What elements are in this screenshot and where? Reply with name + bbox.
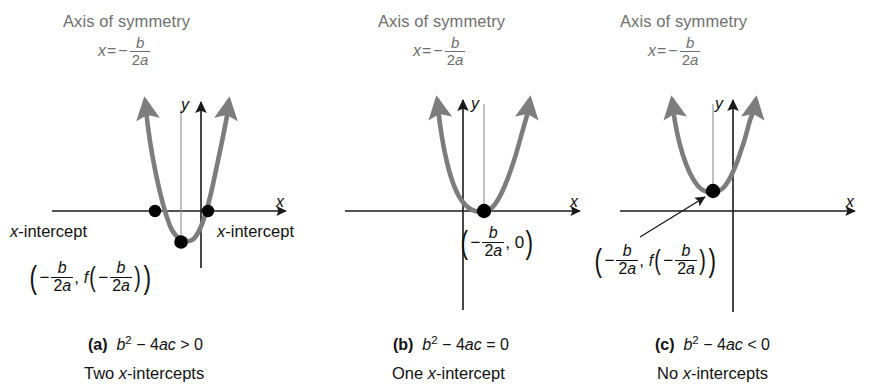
panel-c-parabola-arrow-right <box>754 99 756 111</box>
panel-c-vertex-point <box>706 184 720 198</box>
vertex-b-comma: , <box>505 233 510 252</box>
panel-c-caption-expression: (c) b2 − 4ac < 0 <box>655 334 770 354</box>
panel-b-caption-tag: (b) <box>393 336 413 353</box>
panel-a-right-intercept-x: x <box>217 222 225 240</box>
aos-eq-denominator-b: 2a <box>445 51 466 68</box>
aos-eq-minus-a: − <box>117 42 128 59</box>
panel-a-parabola-arrow-left <box>145 100 147 113</box>
panel-b-vertex-label: (−b2a, 0) <box>459 226 535 260</box>
vertex-a-frac1: b2a <box>51 260 73 294</box>
panel-c-axis-of-symmetry-title: Axis of symmetry <box>620 12 747 31</box>
panel-a-right-x-intercept-point <box>202 205 214 217</box>
panel-a-left-x-intercept-point <box>149 205 161 217</box>
panel-b-expr-minus: − <box>442 336 451 353</box>
aos-eq-x-c: x <box>648 42 656 59</box>
panel-c-expr-zero: 0 <box>761 336 770 353</box>
panel-b-y-axis-label: y <box>471 95 479 113</box>
panel-b-expr-zero: 0 <box>500 336 509 353</box>
vertex-c-comma: , <box>639 251 644 270</box>
panel-b-caption-text: One x-intercept <box>392 364 505 383</box>
panel-c-y-axis-label: y <box>715 95 723 113</box>
aos-eq-x-b: x <box>413 42 421 59</box>
panel-b-vertex-point <box>477 204 491 218</box>
vertex-c-open-paren: ( <box>594 247 602 274</box>
vertex-b-zero: 0 <box>515 233 524 252</box>
panel-a-y-axis-label: y <box>181 96 189 114</box>
panel-b-parabola-arrow-right <box>528 99 530 111</box>
panel-b-parabola-arrow-left <box>437 99 439 111</box>
panel-c-expr-relation: < <box>747 336 756 353</box>
panel-b-caption-post: -intercept <box>436 364 505 382</box>
aos-eq-fraction-b: b2a <box>445 35 466 67</box>
panel-a-right-x-intercept-label: x-intercept <box>217 222 294 241</box>
vertex-a-close-paren: ) <box>143 264 151 291</box>
panel-c-caption-post: -intercepts <box>691 364 768 382</box>
panel-c-caption-text: No x-intercepts <box>657 364 768 383</box>
panel-a-caption-expression: (a) b2 − 4ac > 0 <box>88 334 203 354</box>
vertex-c-inner-close-paren: ) <box>699 248 706 271</box>
aos-eq-numerator-c: b <box>684 35 696 51</box>
panel-a-left-x-intercept-label: x-intercept <box>10 222 87 241</box>
aos-eq-denominator-a: 2a <box>130 51 151 68</box>
aos-eq-numerator-a: b <box>134 35 146 51</box>
vertex-c-f: f <box>649 251 654 269</box>
vertex-c-minus2: − <box>662 251 674 270</box>
panel-a-caption-post: -intercepts <box>127 364 204 382</box>
panel-c-expr-4ac: 4ac <box>717 336 743 353</box>
aos-eq-equals-b: = <box>421 42 432 59</box>
panel-a-expr-exp: 2 <box>125 334 131 346</box>
aos-eq-numerator-b: b <box>449 35 461 51</box>
panel-b-caption-x: x <box>428 364 436 382</box>
panel-b-caption-pre: One <box>392 364 428 382</box>
panel-c-x-axis-label: x <box>846 193 854 211</box>
vertex-b-open-paren: ( <box>460 229 468 256</box>
panel-c-graph <box>620 99 855 312</box>
panel-a-x-axis-label: x <box>276 193 284 211</box>
vertex-c-close-paren: ) <box>708 247 716 274</box>
panel-c-caption-x: x <box>683 364 691 382</box>
vertex-c-minus1: − <box>603 251 615 270</box>
aos-eq-equals-c: = <box>656 42 667 59</box>
panel-c-axis-of-symmetry-equation: x=−b2a <box>648 36 701 68</box>
panel-b-expr-relation: = <box>486 336 495 353</box>
vertex-a-f: f <box>84 268 89 286</box>
panel-b-graph <box>345 99 580 310</box>
aos-eq-denominator-c: 2a <box>680 51 701 68</box>
panel-c-parabola <box>673 107 755 193</box>
panel-a-left-intercept-x: x <box>10 222 18 240</box>
panel-a-caption-text: Two x-intercepts <box>84 364 204 383</box>
panel-a-axis-of-symmetry-equation: x=−b2a <box>98 36 151 68</box>
panel-b-expr-exp: 2 <box>431 334 437 346</box>
panel-a-expr-zero: 0 <box>194 336 203 353</box>
vertex-a-inner-open-paren: ( <box>89 265 96 288</box>
vertex-b-minus: − <box>469 233 481 252</box>
aos-eq-fraction-c: b2a <box>680 35 701 67</box>
aos-eq-minus-b: − <box>432 42 443 59</box>
panel-a-parabola <box>146 110 228 241</box>
panel-a-parabola-arrow-right <box>227 100 229 113</box>
panel-c-vertex-label: (−b2a, f(−b2a)) <box>593 244 718 278</box>
panel-c-caption-tag: (c) <box>655 336 675 353</box>
panel-a-expr-4ac: 4ac <box>150 336 176 353</box>
panel-b-axis-of-symmetry-title: Axis of symmetry <box>378 12 505 31</box>
vertex-b-close-paren: ) <box>526 229 534 256</box>
vertex-c-frac2: b2a <box>675 243 697 277</box>
vertex-c-inner-open-paren: ( <box>654 248 661 271</box>
panel-b-axis-of-symmetry-equation: x=−b2a <box>413 36 466 68</box>
vertex-a-comma: , <box>74 268 79 287</box>
panel-a-vertex-label: (−b2a, f(−b2a)) <box>28 261 153 295</box>
panel-a-caption-tag: (a) <box>88 336 108 353</box>
vertex-c-frac1: b2a <box>616 243 638 277</box>
vertex-a-frac2: b2a <box>110 260 132 294</box>
panel-c-vertex-leader-arrow <box>640 197 705 237</box>
vertex-a-minus1: − <box>38 268 50 287</box>
vertex-a-open-paren: ( <box>29 264 37 291</box>
panel-a-caption-pre: Two <box>84 364 119 382</box>
panel-a-axis-of-symmetry-title: Axis of symmetry <box>63 12 190 31</box>
aos-eq-x-a: x <box>98 42 106 59</box>
panel-c-expr-exp: 2 <box>692 334 698 346</box>
vertex-a-inner-close-paren: ) <box>134 265 141 288</box>
quadratic-discriminant-figure: Axis of symmetry x=−b2a y x x-intercept … <box>0 0 877 391</box>
aos-eq-minus-c: − <box>667 42 678 59</box>
vertex-b-frac: b2a <box>482 225 504 259</box>
